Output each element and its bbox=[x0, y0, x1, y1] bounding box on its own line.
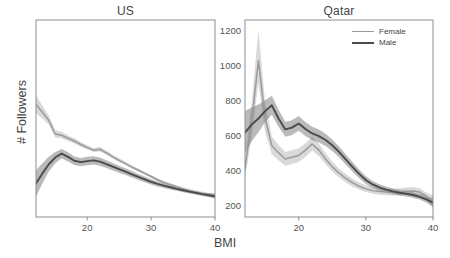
axes-frame bbox=[36, 20, 215, 217]
x-tick-label-20: 20 bbox=[284, 222, 314, 233]
y-tick-label-400: 400 bbox=[207, 165, 241, 176]
figure-root: US Qatar # Followers BMI Female Male 203… bbox=[0, 0, 450, 258]
axes-frame bbox=[245, 20, 433, 217]
y-tick-label-1000: 1000 bbox=[207, 60, 241, 71]
plot-canvas bbox=[0, 0, 450, 258]
ci-band-female bbox=[36, 95, 215, 197]
x-tick-label-40: 40 bbox=[200, 222, 230, 233]
y-tick-label-800: 800 bbox=[207, 95, 241, 106]
y-tick-label-200: 200 bbox=[207, 200, 241, 211]
y-tick-label-1200: 1200 bbox=[207, 25, 241, 36]
x-tick-label-30: 30 bbox=[136, 222, 166, 233]
line-female bbox=[245, 60, 433, 202]
x-tick-label-20: 20 bbox=[72, 222, 102, 233]
ci-band-female bbox=[245, 30, 433, 209]
y-tick-label-600: 600 bbox=[207, 130, 241, 141]
panel-us bbox=[36, 20, 215, 221]
panel-qatar bbox=[245, 20, 433, 221]
x-tick-label-40: 40 bbox=[418, 222, 448, 233]
x-tick-label-30: 30 bbox=[351, 222, 381, 233]
